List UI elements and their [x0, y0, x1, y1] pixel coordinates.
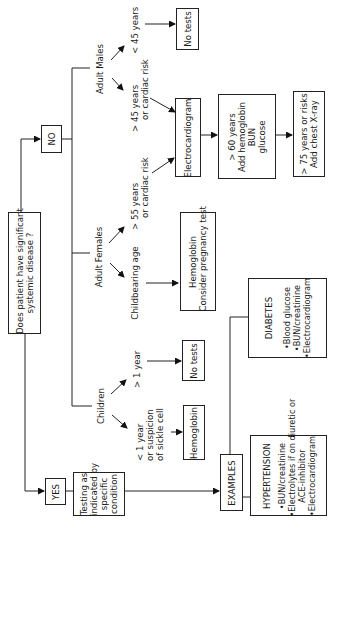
diabetes-box: DIABETES •Blood glucose •BUN/creatinine …	[248, 278, 327, 358]
question-box: Does patient have significant systemic d…	[8, 212, 41, 334]
children-no-tests-label: No tests	[189, 343, 199, 378]
over60-line: Add hemoglobin	[237, 94, 247, 179]
males-no-tests-box: No tests	[176, 8, 199, 50]
question-line-2: systemic disease ?	[25, 212, 35, 334]
over60-line: BUN	[247, 94, 257, 179]
yes-box: YES	[45, 478, 66, 505]
hypertension-item: •BUN/creatinine	[276, 435, 286, 516]
testing-line-1: Testing as	[79, 472, 89, 516]
males-over45-line: or cardiac risk	[140, 60, 150, 132]
over60-line: glucose	[257, 94, 267, 179]
over75-line: Add chest X-ray	[309, 91, 319, 177]
no-label: NO	[47, 132, 57, 145]
diabetes-item: •BUN/creatinine	[292, 278, 302, 358]
adult-males-label: Adult Males	[95, 44, 105, 94]
children-label-wrap: Children	[92, 382, 110, 430]
hypertension-item: ACE-inhibitor	[296, 435, 306, 516]
males-no-tests-label: No tests	[183, 11, 193, 46]
children-under1-line: < 1 year	[135, 405, 145, 461]
adult-males-label-wrap: Adult Males	[91, 42, 109, 96]
examples-label: EXAMPLES	[227, 460, 237, 505]
children-hemoglobin-box: Hemoglobin	[183, 405, 205, 460]
hemoglobin-pregnancy-box: Hemoglobin Consider pregnancy test	[180, 212, 216, 311]
hemoglobin-pregnancy-line: Hemoglobin	[188, 212, 198, 311]
children-no-tests-box: No tests	[182, 340, 205, 381]
question-line-1: Does patient have significant	[15, 212, 25, 334]
males-under45-wrap: < 45 years	[126, 4, 144, 54]
diabetes-title: DIABETES	[264, 278, 274, 358]
examples-box: EXAMPLES	[220, 454, 243, 511]
over60-line: > 60 years	[227, 94, 237, 179]
electrocardiogram-box: Electrocardiogram	[175, 98, 201, 177]
adult-females-label: Adult Females	[94, 227, 104, 288]
yes-label: YES	[51, 483, 61, 499]
testing-line-3: specific	[99, 472, 109, 516]
hypertension-item: •Electrocardiogram	[306, 435, 316, 516]
over75-line: > 75 years or risks	[299, 91, 309, 177]
children-label: Children	[96, 388, 106, 424]
diabetes-item: •Blood glucose	[282, 278, 292, 358]
females-over55-line: > 55 years	[130, 160, 140, 230]
hypertension-item: •Electrolytes if on diuretic or	[286, 435, 296, 516]
testing-line-4: condition	[109, 472, 119, 516]
children-over1-wrap: > 1 year	[128, 340, 146, 388]
hypertension-box: HYPERTENSION •BUN/creatinine •Electrolyt…	[250, 435, 327, 516]
diabetes-item: •Electrocardiogram	[302, 278, 312, 358]
adult-females-label-wrap: Adult Females	[90, 225, 108, 289]
males-over45-line: > 45 years	[130, 60, 140, 132]
hemoglobin-pregnancy-line: Consider pregnancy test	[198, 212, 208, 311]
over75-box: > 75 years or risks Add chest X-ray	[293, 91, 325, 177]
children-under1-wrap: < 1 year or suspicion of sickle cell	[128, 405, 171, 461]
childbearing-age-wrap: Childbearing age	[126, 246, 144, 320]
females-over55-wrap: > 55 years or cardiac risk	[126, 160, 154, 230]
males-over45-wrap: > 45 years or cardiac risk	[126, 60, 154, 132]
children-under1-line: or suspicion	[145, 405, 155, 461]
children-over1-label: > 1 year	[132, 351, 142, 388]
no-box: NO	[41, 125, 62, 153]
testing-line-2: indicated by	[89, 472, 99, 516]
females-over55-line: or cardiac risk	[140, 160, 150, 230]
children-hemoglobin-label: Hemoglobin	[189, 407, 199, 459]
childbearing-age-label: Childbearing age	[130, 246, 140, 319]
children-under1-line: of sickle cell	[155, 405, 165, 461]
males-under45-label: < 45 years	[130, 7, 140, 54]
hypertension-title: HYPERTENSION	[261, 435, 271, 516]
testing-box: Testing as indicated by specific conditi…	[73, 472, 125, 516]
electrocardiogram-label: Electrocardiogram	[183, 98, 193, 177]
over60-box: > 60 years Add hemoglobin BUN glucose	[218, 94, 276, 179]
